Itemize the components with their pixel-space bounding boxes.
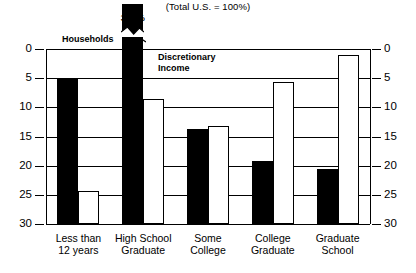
y-axis-label-left-25: 5 [26,72,32,84]
y-tick-r-30 [372,49,381,50]
y-tick-r-5 [372,195,381,196]
y-tick-l-10 [35,166,44,167]
y-axis-label-left-30: 0 [26,43,32,55]
y-tick-r-0 [372,224,381,225]
y-tick-l-20 [35,107,44,108]
gridline-20 [46,107,370,108]
bar-households-4 [317,169,338,224]
bar-discretionary-income-2 [208,126,229,224]
y-axis-label-left-20: 10 [19,101,32,113]
annotation-households-text: Households [62,34,114,44]
y-tick-r-15 [372,137,381,138]
bar-axis-break-zigzag-icon [121,25,144,37]
bar-discretionary-income-3 [273,82,294,224]
y-axis-label-right-25: 5 [384,72,390,84]
category-label-line1: Graduate [299,233,376,245]
y-axis-label-right-5: 25 [384,189,397,201]
plot-area [46,49,370,224]
y-axis-label-left-10: 20 [19,160,32,172]
y-tick-r-25 [372,78,381,79]
y-axis-label-right-15: 15 [384,131,397,143]
bar-discretionary-income-0 [78,191,99,224]
y-axis-label-right-10: 20 [384,160,397,172]
y-tick-l-5 [35,195,44,196]
y-tick-l-0 [35,224,44,225]
y-tick-l-25 [35,78,44,79]
bar-households-1 [122,49,143,224]
gridline-0 [46,224,370,225]
y-tick-l-30 [35,49,44,50]
y-axis-label-left-15: 15 [19,131,32,143]
y-axis-right [370,49,371,224]
bar-households-3 [252,161,273,224]
y-axis-label-right-30: 0 [384,43,390,55]
gridline-25 [46,78,370,79]
y-tick-r-10 [372,166,381,167]
category-label-line2: School [299,245,376,257]
y-axis-label-left-0: 30 [19,218,32,230]
chart-subtitle: (Total U.S. = 100%) [0,1,416,12]
y-axis-label-right-20: 10 [384,101,397,113]
y-tick-r-20 [372,107,381,108]
y-axis-label-right-0: 30 [384,218,397,230]
bar-households-2 [187,129,208,224]
annotation-households: Households [62,34,114,44]
y-axis-left [46,49,47,224]
bar-discretionary-income-4 [338,55,359,224]
y-axis-label-left-5: 25 [19,189,32,201]
y-tick-l-15 [35,137,44,138]
bar-households-0 [57,78,78,224]
bar-discretionary-income-1 [143,99,164,224]
category-label-4: GraduateSchool [299,233,376,256]
gridline-30 [46,49,370,50]
